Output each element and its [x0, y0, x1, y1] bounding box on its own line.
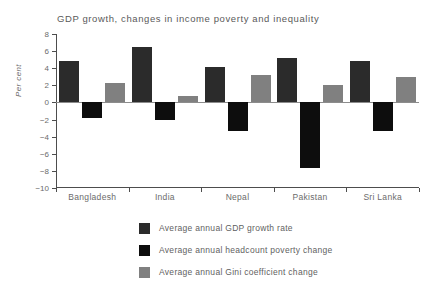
chart-title: GDP growth, changes in income poverty an… — [57, 13, 319, 24]
y-tick-mark — [52, 85, 56, 86]
y-tick-label: 8 — [45, 30, 49, 39]
y-tick-mark — [52, 102, 56, 103]
bar — [105, 83, 125, 103]
bar — [228, 102, 248, 130]
y-tick-mark — [52, 34, 56, 35]
bar — [59, 61, 79, 103]
y-tick-label: −10 — [35, 184, 49, 193]
bar — [396, 77, 416, 103]
legend-swatch — [139, 245, 150, 256]
y-tick-label: −2 — [40, 115, 49, 124]
bar — [350, 61, 370, 103]
legend-label: Average annual GDP growth rate — [159, 223, 293, 233]
x-axis-label: Nepal — [201, 192, 274, 202]
legend-item[interactable]: Average annual Gini coefficient change — [139, 264, 333, 280]
bar — [373, 102, 393, 130]
y-tick-mark — [52, 51, 56, 52]
bar — [132, 47, 152, 103]
y-tick-label: −8 — [40, 166, 49, 175]
chart-figure: GDP growth, changes in income poverty an… — [0, 0, 441, 283]
x-axis-label: Sri Lanka — [346, 192, 419, 202]
bar — [178, 96, 198, 103]
y-tick-mark — [52, 154, 56, 155]
x-axis-label: Bangladesh — [56, 192, 129, 202]
bar — [82, 102, 102, 117]
bar — [251, 75, 271, 102]
y-tick-mark — [52, 120, 56, 121]
x-axis-line — [56, 187, 419, 188]
y-tick-label: 4 — [45, 64, 49, 73]
y-tick-label: −4 — [40, 132, 49, 141]
y-tick-mark — [52, 137, 56, 138]
legend-label: Average annual headcount poverty change — [159, 245, 333, 255]
bar — [205, 67, 225, 103]
chart-legend: Average annual GDP growth rateAverage an… — [139, 220, 333, 283]
x-axis-label: Pakistan — [274, 192, 347, 202]
y-tick-mark — [52, 171, 56, 172]
bar — [155, 102, 175, 120]
y-tick-label: −6 — [40, 149, 49, 158]
y-tick-label: 0 — [45, 98, 49, 107]
legend-item[interactable]: Average annual headcount poverty change — [139, 242, 333, 258]
y-axis-title: Per cent — [14, 64, 23, 97]
y-axis-line — [56, 34, 57, 188]
legend-item[interactable]: Average annual GDP growth rate — [139, 220, 333, 236]
y-tick-label: 6 — [45, 47, 49, 56]
bar — [300, 102, 320, 168]
legend-swatch — [139, 267, 150, 278]
legend-swatch — [139, 223, 150, 234]
legend-label: Average annual Gini coefficient change — [159, 267, 318, 277]
bar — [277, 58, 297, 102]
y-tick-mark — [52, 68, 56, 69]
bar — [323, 85, 343, 102]
x-axis-label: India — [129, 192, 202, 202]
plot-area: 86420−2−4−6−8−10 — [56, 34, 419, 188]
y-tick-label: 2 — [45, 81, 49, 90]
x-tick-mark — [419, 188, 420, 192]
